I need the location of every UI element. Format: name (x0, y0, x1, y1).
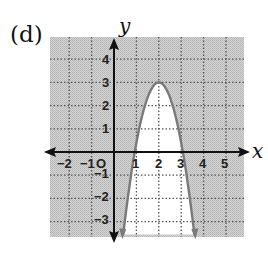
x-tick-label: 3 (177, 156, 184, 171)
y-tick-label: −2 (94, 189, 109, 204)
x-axis-label: x (252, 139, 263, 163)
inequality-graph-figure: (d) y x O −2 −1 1 2 3 4 5 4 3 2 1 −1 −2 … (0, 0, 268, 274)
y-tick-label: −1 (94, 166, 109, 181)
x-tick-label: 1 (132, 156, 139, 171)
x-tick-label: 5 (221, 156, 228, 171)
x-tick-label: −1 (80, 156, 95, 171)
x-tick-label: 4 (199, 156, 207, 171)
y-tick-label: 3 (102, 75, 109, 90)
x-tick-label: −2 (57, 156, 72, 171)
y-tick-label: 1 (102, 121, 109, 136)
y-tick-label: −3 (94, 212, 109, 227)
x-tick-label: 2 (155, 156, 162, 171)
y-tick-label: 4 (102, 52, 110, 67)
y-tick-label: 2 (102, 98, 109, 113)
graph-svg: (d) y x O −2 −1 1 2 3 4 5 4 3 2 1 −1 −2 … (0, 0, 268, 274)
figure-label: (d) (10, 21, 43, 47)
y-axis-label: y (118, 14, 131, 38)
